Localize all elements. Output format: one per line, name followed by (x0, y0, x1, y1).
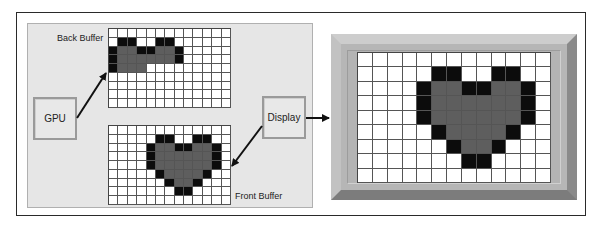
pixel-cell (118, 38, 127, 47)
pixel-cell (165, 38, 174, 47)
pixel-cell (506, 53, 521, 67)
pixel-cell (109, 144, 118, 153)
pixel-cell (118, 161, 127, 170)
pixel-cell (477, 67, 492, 81)
pixel-cell (506, 169, 521, 183)
pixel-cell (128, 135, 137, 144)
pixel-cell (492, 140, 507, 154)
pixel-cell (358, 67, 373, 81)
pixel-cell (109, 64, 118, 73)
pixel-cell (118, 152, 127, 161)
pixel-cell (128, 126, 137, 135)
pixel-cell (417, 67, 432, 81)
pixel-cell (222, 82, 231, 91)
pixel-cell (128, 161, 137, 170)
pixel-cell (222, 144, 231, 153)
pixel-cell (203, 38, 212, 47)
pixel-cell (156, 161, 165, 170)
pixel-cell (212, 161, 221, 170)
pixel-cell (203, 161, 212, 170)
pixel-cell (137, 161, 146, 170)
pixel-cell (128, 82, 137, 91)
pixel-cell (462, 111, 477, 125)
pixel-cell (128, 47, 137, 56)
pixel-cell (212, 144, 221, 153)
pixel-cell (477, 125, 492, 139)
pixel-cell (447, 67, 462, 81)
pixel-cell (184, 179, 193, 188)
monitor-screen-grid (357, 52, 551, 183)
pixel-cell (388, 140, 403, 154)
pixel-cell (447, 53, 462, 67)
pixel-cell (506, 111, 521, 125)
pixel-cell (203, 144, 212, 153)
pixel-cell (492, 67, 507, 81)
pixel-cell (358, 53, 373, 67)
pixel-cell (109, 179, 118, 188)
pixel-cell (175, 161, 184, 170)
pixel-cell (373, 67, 388, 81)
pixel-cell (156, 99, 165, 108)
pixel-cell (193, 196, 202, 205)
pixel-cell (492, 154, 507, 168)
pixel-cell (521, 169, 536, 183)
pixel-cell (492, 111, 507, 125)
pixel-cell (203, 126, 212, 135)
pixel-cell (193, 90, 202, 99)
pixel-cell (175, 38, 184, 47)
pixel-cell (477, 53, 492, 67)
pixel-cell (417, 154, 432, 168)
pixel-cell (156, 170, 165, 179)
pixel-cell (109, 82, 118, 91)
pixel-cell (175, 179, 184, 188)
pixel-cell (165, 152, 174, 161)
pixel-cell (184, 47, 193, 56)
pixel-cell (203, 187, 212, 196)
pixel-cell (156, 196, 165, 205)
pixel-cell (109, 55, 118, 64)
pixel-cell (156, 73, 165, 82)
pixel-cell (118, 90, 127, 99)
pixel-cell (184, 64, 193, 73)
back-buffer-grid (108, 28, 231, 108)
pixel-cell (417, 169, 432, 183)
pixel-cell (193, 179, 202, 188)
pixel-cell (165, 90, 174, 99)
pixel-cell (417, 96, 432, 110)
pixel-cell (118, 187, 127, 196)
pixel-cell (156, 55, 165, 64)
pixel-cell (193, 82, 202, 91)
pixel-cell (109, 99, 118, 108)
pixel-cell (156, 187, 165, 196)
pixel-cell (147, 55, 156, 64)
pixel-cell (212, 73, 221, 82)
pixel-cell (432, 96, 447, 110)
pixel-cell (165, 144, 174, 153)
pixel-cell (403, 53, 418, 67)
pixel-cell (521, 154, 536, 168)
pixel-cell (388, 169, 403, 183)
pixel-cell (447, 169, 462, 183)
pixel-cell (109, 170, 118, 179)
pixel-cell (432, 154, 447, 168)
pixel-cell (212, 187, 221, 196)
pixel-cell (373, 82, 388, 96)
pixel-cell (184, 90, 193, 99)
pixel-cell (193, 126, 202, 135)
pixel-cell (118, 47, 127, 56)
pixel-cell (128, 64, 137, 73)
pixel-cell (128, 196, 137, 205)
pixel-cell (222, 152, 231, 161)
pixel-cell (109, 90, 118, 99)
back-buffer-label: Back Buffer (57, 33, 103, 43)
pixel-cell (203, 29, 212, 38)
pixel-cell (432, 125, 447, 139)
pixel-cell (118, 64, 127, 73)
pixel-cell (536, 111, 551, 125)
pixel-cell (184, 99, 193, 108)
pixel-cell (193, 64, 202, 73)
pixel-cell (212, 135, 221, 144)
pixel-cell (184, 29, 193, 38)
pixel-cell (403, 169, 418, 183)
pixel-cell (156, 29, 165, 38)
